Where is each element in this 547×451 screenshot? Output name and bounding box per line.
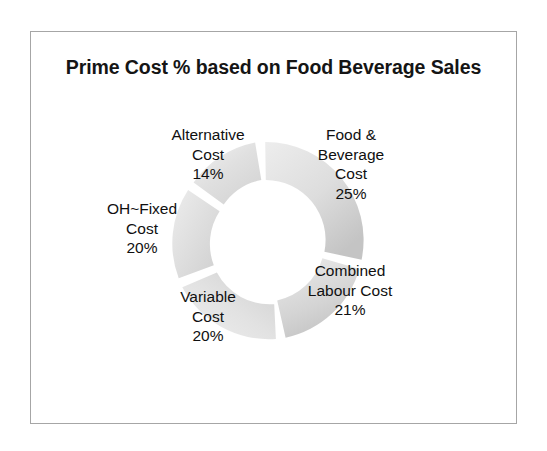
label-line: OH~Fixed [77, 199, 207, 219]
label-value: 14% [143, 164, 273, 184]
doughnut-chart: Food & Beverage Cost 25% Combined Labour… [103, 101, 433, 391]
label-line: Cost [143, 145, 273, 165]
label-line: Labour Cost [285, 281, 415, 301]
slice-label-oh-fixed-cost: OH~Fixed Cost 20% [77, 199, 207, 258]
label-value: 20% [148, 326, 268, 346]
label-line: Variable [148, 287, 268, 307]
chart-title: Prime Cost % based on Food Beverage Sale… [31, 56, 516, 79]
label-line: Cost [291, 164, 411, 184]
label-value: 25% [291, 184, 411, 204]
slice-label-variable-cost: Variable Cost 20% [148, 287, 268, 346]
slice-label-alternative-cost: Alternative Cost 14% [143, 125, 273, 184]
slice-label-combined-labour-cost: Combined Labour Cost 21% [285, 261, 415, 320]
label-line: Cost [77, 219, 207, 239]
chart-page-frame: Prime Cost % based on Food Beverage Sale… [30, 31, 517, 424]
label-line: Beverage [291, 145, 411, 165]
label-value: 21% [285, 300, 415, 320]
label-line: Combined [285, 261, 415, 281]
label-line: Alternative [143, 125, 273, 145]
label-line: Cost [148, 307, 268, 327]
label-line: Food & [291, 125, 411, 145]
label-value: 20% [77, 238, 207, 258]
slice-label-food-beverage-cost: Food & Beverage Cost 25% [291, 125, 411, 203]
